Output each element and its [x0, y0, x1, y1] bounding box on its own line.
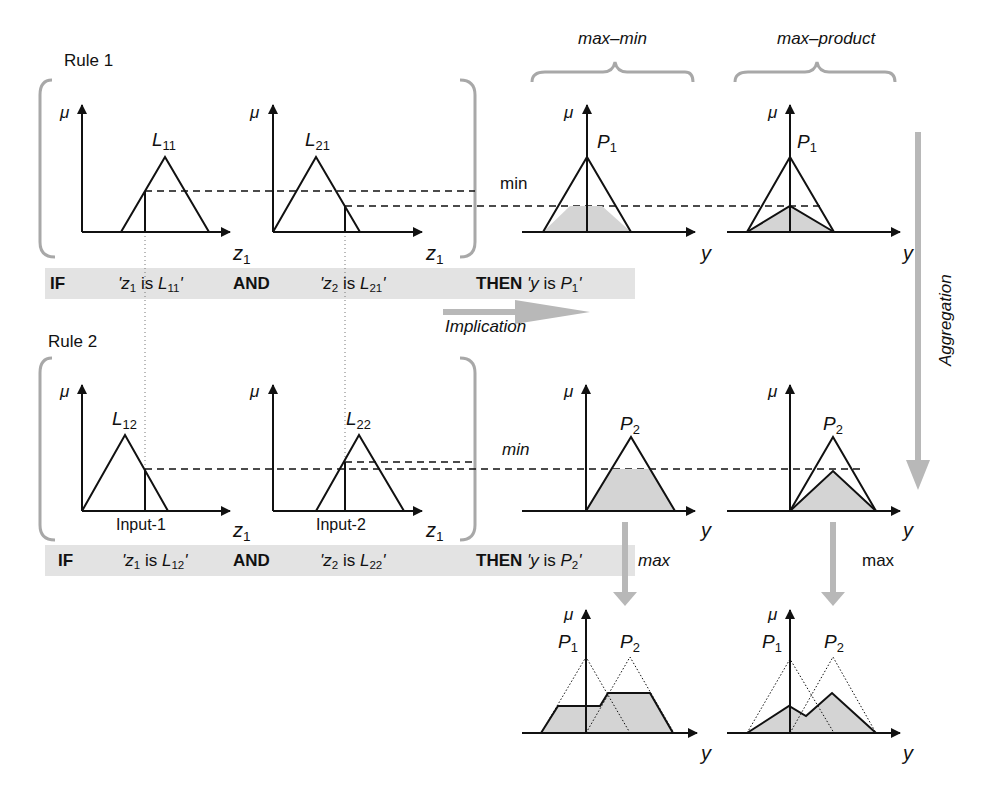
axis-label-y: y — [903, 520, 913, 540]
plot-rule1-max-product — [727, 105, 900, 232]
rule2-antecedent-2: 'z2 is L22' — [320, 552, 385, 572]
min-label-rule2: min — [502, 441, 529, 458]
plot-rule1-max-min — [522, 105, 695, 232]
max-min-brace — [532, 62, 693, 82]
set-label-P1: P1 — [558, 632, 578, 655]
rule1-if: IF — [50, 274, 65, 293]
rule1-label: Rule 1 — [64, 52, 113, 69]
set-label-P2: P2 — [824, 632, 844, 655]
axis-label-y: y — [701, 520, 711, 540]
rule2-antecedent-1: 'z1 is L12' — [122, 552, 187, 572]
axis-label-z1: z1 — [426, 243, 444, 267]
mu-label: μ — [768, 606, 777, 623]
rule1-consequent: THEN 'y is P1' — [476, 275, 582, 295]
set-label-L21: L21 — [305, 130, 330, 153]
mu-label: μ — [564, 606, 573, 623]
mu-label: μ — [768, 104, 777, 121]
rule1-antecedent-1: 'z1 is L11' — [118, 275, 183, 295]
input2-label: Input-2 — [316, 517, 366, 533]
mu-label: μ — [564, 383, 573, 400]
mu-label: μ — [250, 104, 259, 121]
min-label-rule1: min — [500, 175, 527, 192]
max-product-brace — [735, 62, 895, 82]
mu-label: μ — [564, 104, 573, 121]
max-arrow-right — [821, 522, 845, 606]
set-label-P1: P1 — [762, 632, 782, 655]
set-label-L12: L12 — [112, 409, 137, 432]
plot-L11 — [82, 105, 230, 232]
input1-label: Input-1 — [116, 517, 166, 533]
set-label-P2: P2 — [620, 632, 640, 655]
rule2-consequent: THEN 'y is P2' — [476, 552, 582, 572]
plot-L21 — [273, 105, 422, 232]
aggregation-arrow — [906, 132, 930, 490]
mu-label: μ — [768, 383, 777, 400]
rule2-label: Rule 2 — [48, 333, 97, 350]
rule2-if: IF — [58, 552, 73, 569]
set-label-P2: P2 — [620, 414, 640, 437]
axis-label-y: y — [903, 743, 913, 763]
max-label-left: max — [638, 552, 670, 569]
mu-label: μ — [60, 383, 69, 400]
set-label-P2: P2 — [823, 414, 843, 437]
rule1-antecedent-2: 'z2 is L21' — [320, 275, 385, 295]
plot-aggregated-max-product — [727, 610, 900, 733]
max-product-heading: max–product — [777, 30, 875, 47]
diagram-graphics — [0, 0, 993, 792]
axis-label-y: y — [903, 243, 913, 263]
aggregation-label: Aggregation — [937, 274, 954, 366]
plot-aggregated-max-min — [522, 610, 697, 733]
implication-label: Implication — [445, 318, 526, 335]
plot-L12 — [82, 385, 230, 511]
rule1-and: AND — [233, 275, 270, 292]
set-label-P1: P1 — [797, 132, 817, 155]
max-label-right: max — [862, 552, 894, 569]
axis-label-z1: z1 — [233, 520, 251, 544]
plot-L22 — [273, 385, 422, 511]
axis-label-z1: z1 — [426, 520, 444, 544]
set-label-L11: L11 — [152, 130, 176, 153]
set-label-P1: P1 — [597, 132, 617, 155]
axis-label-y: y — [701, 243, 711, 263]
plot-rule2-max-product — [727, 385, 900, 511]
fuzzy-inference-diagram: Rule 1 Rule 2 max–min max–product μ μ μ … — [0, 0, 993, 792]
plot-rule2-max-min — [522, 385, 695, 511]
axis-label-z1: z1 — [233, 243, 251, 267]
mu-label: μ — [60, 104, 69, 121]
rule1-statement: IF — [50, 275, 65, 292]
mu-label: μ — [250, 383, 259, 400]
axis-label-y: y — [701, 743, 711, 763]
rule2-and: AND — [233, 552, 270, 569]
set-label-L22: L22 — [346, 409, 371, 432]
max-min-heading: max–min — [578, 30, 647, 47]
